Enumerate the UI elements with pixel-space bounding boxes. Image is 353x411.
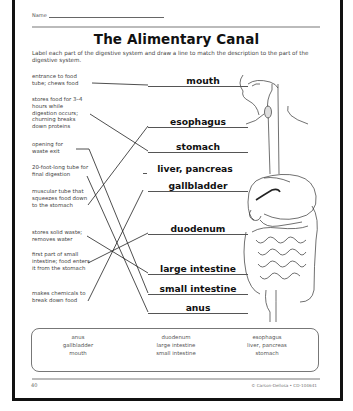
label-liver-pancreas: liver, pancreas bbox=[145, 163, 245, 174]
label-large-intestine: large intestine bbox=[148, 263, 248, 274]
underline-mouth bbox=[148, 86, 248, 87]
underline-anus bbox=[148, 313, 248, 314]
word-bank-column-1: anus gallbladder mouth bbox=[33, 333, 123, 357]
label-anus: anus bbox=[150, 302, 246, 313]
word-bank-column-3: esophagus liver, pancreas stomach bbox=[222, 333, 312, 357]
word-gallbladder: gallbladder bbox=[33, 341, 123, 349]
label-esophagus: esophagus bbox=[150, 116, 246, 127]
underline-esophagus bbox=[148, 127, 248, 128]
word-small-intestine: small intestine bbox=[131, 349, 221, 357]
word-duodenum: duodenum bbox=[131, 333, 221, 341]
label-small-intestine: small intestine bbox=[148, 283, 248, 294]
bottom-divider bbox=[32, 378, 320, 380]
underline-stomach bbox=[148, 152, 248, 153]
underline-large-intestine bbox=[148, 274, 248, 275]
word-liver-pancreas: liver, pancreas bbox=[222, 341, 312, 349]
word-large-intestine: large intestine bbox=[131, 341, 221, 349]
digestive-system-illustration bbox=[240, 75, 317, 322]
underline-small-intestine bbox=[148, 294, 248, 295]
label-duodenum: duodenum bbox=[150, 223, 246, 234]
word-mouth: mouth bbox=[33, 349, 123, 357]
label-mouth: mouth bbox=[160, 75, 246, 86]
underline-gallbladder bbox=[148, 191, 248, 192]
page-number: 40 bbox=[31, 382, 37, 388]
underline-duodenum bbox=[148, 234, 248, 235]
word-esophagus: esophagus bbox=[222, 333, 312, 341]
word-stomach: stomach bbox=[222, 349, 312, 357]
copyright: © Carson-Dellosa • CD-104641 bbox=[251, 383, 317, 388]
label-stomach: stomach bbox=[150, 141, 246, 152]
word-bank: anus gallbladder mouth duodenum large in… bbox=[31, 328, 319, 372]
label-gallbladder: gallbladder bbox=[150, 180, 246, 191]
word-bank-column-2: duodenum large intestine small intestine bbox=[131, 333, 221, 357]
word-anus: anus bbox=[33, 333, 123, 341]
